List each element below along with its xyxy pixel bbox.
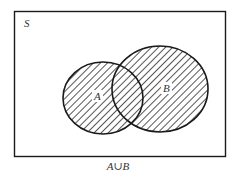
venn-diagram: S A B A∪B	[0, 0, 237, 178]
caption: A∪B	[106, 160, 130, 172]
set-b-label: B	[163, 82, 170, 94]
universe-label: S	[24, 17, 30, 29]
set-a-label: A	[93, 90, 101, 102]
